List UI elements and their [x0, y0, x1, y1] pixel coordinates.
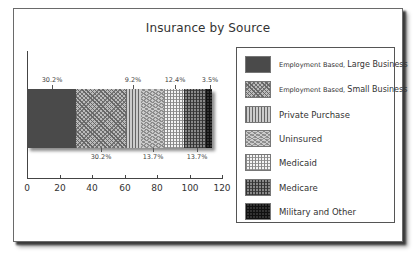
segment-medicare: [184, 89, 206, 148]
legend-item-medicaid: Medicaid: [245, 154, 317, 171]
legend-item-employment-small: Employment Based, Small Business: [245, 81, 407, 98]
legend-swatch: [245, 56, 271, 73]
x-tick-label: 120: [213, 183, 230, 193]
stacked-bar: [27, 89, 212, 148]
x-tick: [157, 175, 158, 179]
data-label-employment-small: 30.2%: [91, 153, 112, 161]
segment-employment-large: [27, 89, 76, 148]
x-tick-label: 100: [181, 183, 198, 193]
data-label-tick: [210, 85, 211, 89]
chart-frame: Insurance by Source 30.2% 9.2% 12.4% 3.5…: [13, 8, 403, 242]
x-tick: [92, 175, 93, 179]
legend-label: Medicare: [279, 183, 318, 193]
data-label-medicaid: 12.4%: [165, 76, 186, 84]
legend-label: Employment Based, Small Business: [279, 85, 407, 94]
legend-label: Uninsured: [279, 134, 322, 144]
data-label-tick: [133, 85, 134, 89]
data-label-tick: [52, 85, 53, 89]
legend-label: Medicaid: [279, 158, 317, 168]
segment-military-other: [206, 89, 212, 148]
legend-label: Employment Based, Large Business: [279, 60, 408, 69]
legend-item-medicare: Medicare: [245, 179, 318, 196]
legend: Employment Based, Large Business Employm…: [236, 47, 395, 223]
x-tick-label: 60: [119, 183, 130, 193]
legend-item-uninsured: Uninsured: [245, 130, 322, 147]
data-label-medicare: 13.7%: [187, 153, 208, 161]
x-tick: [60, 175, 61, 179]
legend-swatch: [245, 106, 271, 123]
x-tick: [190, 175, 191, 179]
legend-item-private-purchase: Private Purchase: [245, 106, 350, 123]
plot-area: 30.2% 9.2% 12.4% 3.5% 30.2% 13.7% 13.7% …: [14, 9, 244, 241]
legend-label: Private Purchase: [279, 110, 350, 120]
x-tick: [222, 175, 223, 179]
legend-swatch: [245, 179, 271, 196]
data-label-employment-large: 30.2%: [42, 76, 63, 84]
x-tick: [125, 175, 126, 179]
x-tick-label: 20: [54, 183, 65, 193]
legend-item-employment-large: Employment Based, Large Business: [245, 56, 408, 73]
legend-swatch: [245, 130, 271, 147]
data-label-tick: [101, 148, 102, 152]
legend-swatch: [245, 81, 271, 98]
data-label-tick: [175, 85, 176, 89]
legend-swatch: [245, 154, 271, 171]
segment-medicaid: [164, 89, 184, 148]
legend-swatch: [245, 203, 271, 220]
x-tick-label: 0: [24, 183, 30, 193]
legend-label: Military and Other: [279, 207, 356, 217]
data-label-military-other: 3.5%: [202, 76, 219, 84]
data-label-tick: [153, 148, 154, 152]
x-tick: [27, 175, 28, 179]
x-tick-label: 40: [86, 183, 97, 193]
segment-uninsured: [141, 89, 164, 148]
x-tick-label: 80: [151, 183, 162, 193]
data-label-uninsured: 13.7%: [143, 153, 164, 161]
segment-employment-small: [76, 89, 126, 148]
data-label-private-purchase: 9.2%: [125, 76, 142, 84]
legend-item-military-other: Military and Other: [245, 203, 356, 220]
data-label-tick: [197, 148, 198, 152]
segment-private-purchase: [126, 89, 141, 148]
